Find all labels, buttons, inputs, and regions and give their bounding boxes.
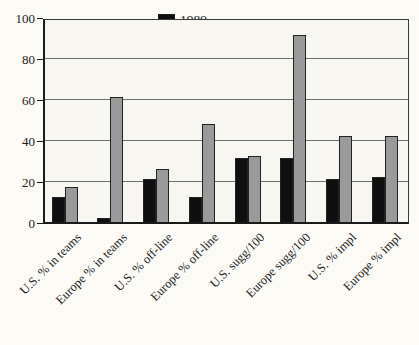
y-tick-label: 80 [3, 53, 35, 67]
y-tick-mark [37, 223, 43, 224]
y-tick-label: 40 [3, 135, 35, 149]
y-tick-mark [37, 59, 43, 60]
y-tick-label: 20 [3, 176, 35, 190]
plot-area [43, 19, 409, 224]
grouped-bar-chart: 1989 1994 020406080100 U.S. % in teamsEu… [0, 0, 419, 345]
bar-1989 [326, 179, 339, 222]
bar-1989 [372, 177, 385, 222]
y-tick-mark [37, 182, 43, 183]
y-tick-mark [37, 141, 43, 142]
y-tick-mark [37, 18, 43, 19]
gridline [45, 99, 408, 100]
bar-1989 [52, 197, 65, 222]
bar-1994 [385, 136, 398, 222]
y-tick-mark [37, 100, 43, 101]
bar-1994 [293, 35, 306, 222]
gridline [45, 181, 408, 182]
bar-1989 [235, 158, 248, 222]
y-tick-label: 60 [3, 94, 35, 108]
bar-1994 [65, 187, 78, 222]
y-tick-label: 0 [3, 217, 35, 231]
gridline [45, 58, 408, 59]
bar-1994 [110, 97, 123, 222]
bar-1994 [248, 156, 261, 222]
bar-1994 [156, 169, 169, 222]
bar-1989 [97, 218, 110, 222]
bar-1989 [143, 179, 156, 222]
bar-1989 [280, 158, 293, 222]
bar-1994 [339, 136, 352, 222]
bar-1994 [202, 124, 215, 222]
y-tick-label: 100 [3, 12, 35, 26]
bar-1989 [189, 197, 202, 222]
gridline [45, 140, 408, 141]
